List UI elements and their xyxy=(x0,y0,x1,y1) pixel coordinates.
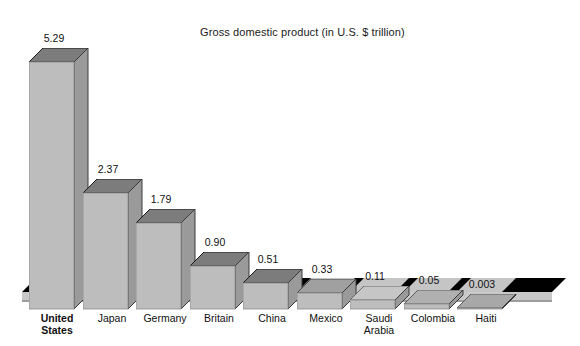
gdp-bar-chart: Gross domestic product (in U.S. $ trilli… xyxy=(0,0,580,346)
x-axis-labels: United States Japan Germany Britain Chin… xyxy=(0,309,580,346)
bar-value-haiti: 0.003 xyxy=(451,278,513,290)
bar-saudi-arabia[interactable]: 0.11 xyxy=(350,0,412,310)
x-label-haiti: Haiti xyxy=(449,313,523,325)
plot-area: 5.29 2.37 1.79 xyxy=(0,0,580,310)
bar-value-germany: 1.79 xyxy=(130,193,192,205)
bar-haiti[interactable]: 0.003 xyxy=(457,0,519,310)
bar-value-japan: 2.37 xyxy=(77,163,139,175)
bar-united-states[interactable]: 5.29 xyxy=(29,0,91,310)
bar-germany[interactable]: 1.79 xyxy=(136,0,198,310)
bar-value-china: 0.51 xyxy=(237,253,299,265)
bar-value-britain: 0.90 xyxy=(184,236,246,248)
bar-value-saudi-arabia: 0.11 xyxy=(344,270,406,282)
bar-value-united-states: 5.29 xyxy=(23,32,85,44)
